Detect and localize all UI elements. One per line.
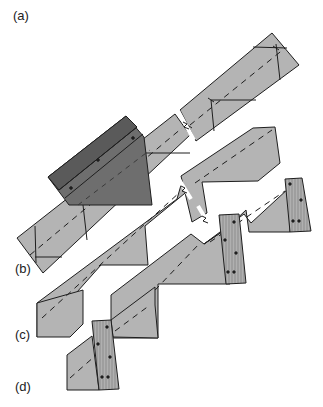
- stage-c-block-upper: [285, 178, 311, 232]
- stair-stringer-diagram: [0, 0, 323, 407]
- framing-square: [48, 116, 152, 205]
